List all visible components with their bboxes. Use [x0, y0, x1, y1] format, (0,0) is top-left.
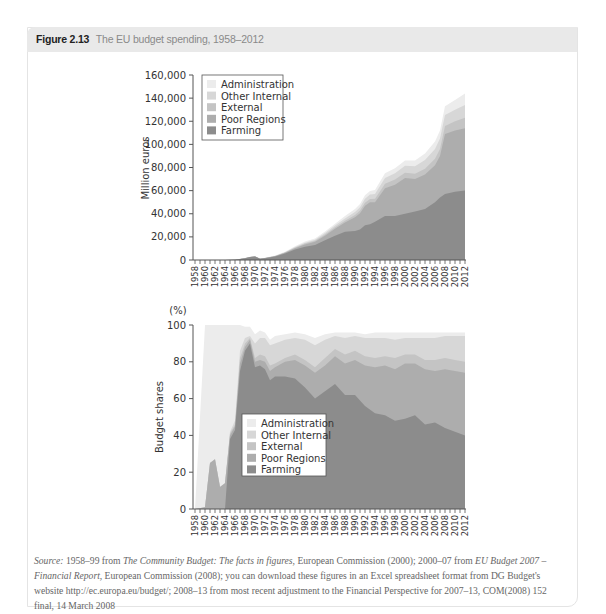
legend-item: External: [221, 102, 263, 113]
x-tick-label: 1968: [240, 266, 250, 287]
top-chart-legend: AdministrationOther InternalExternalPoor…: [202, 75, 294, 140]
x-tick-label: 1992: [360, 266, 370, 287]
y-tick-label: 60,000: [151, 185, 186, 196]
x-tick-label: 1958: [190, 266, 200, 287]
source-label: Source:: [34, 555, 63, 566]
x-tick-label: 1984: [320, 266, 330, 287]
legend-item: Other Internal: [221, 91, 291, 102]
y-tick-label: 20,000: [151, 231, 186, 242]
y-tick-label: 40,000: [151, 208, 186, 219]
x-tick-label: 2010: [450, 266, 460, 287]
top-chart-million-euros: 020,00040,00060,00080,000100,000120,0001…: [0, 0, 606, 300]
x-tick-label: 1976: [280, 266, 290, 287]
x-tick-label: 2012: [460, 266, 470, 287]
x-tick-label: 1998: [390, 266, 400, 287]
x-tick-label: 1964: [220, 266, 230, 287]
legend-swatch: [207, 103, 216, 111]
source-segment: 1958–99 from: [63, 555, 122, 566]
x-tick-label: 2004: [420, 266, 430, 287]
source-text: 1958–99 from The Community Budget: The f…: [34, 555, 547, 611]
x-tick-label: 1972: [260, 266, 270, 287]
x-tick-label: 1960: [200, 266, 210, 287]
x-tick-label: 1996: [380, 266, 390, 287]
top-chart-ylabel: Million euros: [140, 136, 151, 199]
x-tick-label: 1990: [350, 266, 360, 287]
y-tick-label: 0: [180, 255, 186, 266]
source-note: Source: 1958–99 from The Community Budge…: [34, 553, 554, 613]
source-segment: , European Commission (2000); 2000–07 fr…: [293, 555, 476, 566]
x-tick-label: 1986: [330, 266, 340, 287]
legend-swatch: [207, 115, 216, 123]
legend-swatch: [207, 92, 216, 100]
y-tick-label: 160,000: [145, 70, 186, 81]
legend-swatch: [207, 80, 216, 88]
x-tick-label: 2006: [430, 266, 440, 287]
x-tick-label: 1982: [310, 266, 320, 287]
x-tick-label: 1962: [210, 266, 220, 287]
y-tick-label: 80,000: [151, 162, 186, 173]
x-tick-label: 1970: [250, 266, 260, 287]
x-tick-label: 1994: [370, 266, 380, 287]
legend-item: Farming: [221, 125, 261, 136]
x-tick-label: 2002: [410, 266, 420, 287]
x-tick-label: 1978: [290, 266, 300, 287]
x-tick-label: 1980: [300, 266, 310, 287]
source-segment: The Community Budget: The facts in figur…: [123, 555, 293, 566]
x-tick-label: 1974: [270, 266, 280, 287]
y-tick-label: 140,000: [145, 93, 186, 104]
legend-item: Administration: [221, 79, 294, 90]
legend-item: Poor Regions: [221, 114, 286, 125]
source-segment: , European Commission (2008); you can do…: [34, 570, 547, 611]
legend-swatch: [207, 126, 216, 134]
x-tick-label: 2000: [400, 266, 410, 287]
x-tick-label: 2008: [440, 266, 450, 287]
y-tick-label: 120,000: [145, 116, 186, 127]
x-tick-label: 1966: [230, 266, 240, 287]
x-tick-label: 1988: [340, 266, 350, 287]
